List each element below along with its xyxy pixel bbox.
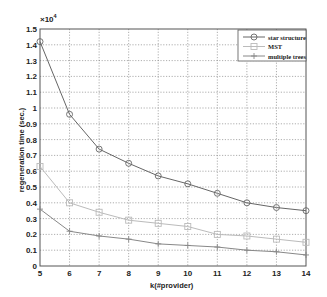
plus-marker [244,247,250,253]
x-tick-label: 5 [38,269,43,278]
chart-canvas: 00.10.20.30.40.50.60.70.80.911.11.21.31.… [0,0,327,297]
y-tick-label: 0.2 [26,230,38,239]
y-tick-label: 1.1 [26,88,38,97]
y-tick-label: 0.4 [26,199,38,208]
x-tick-label: 6 [67,269,72,278]
series-line [40,42,306,211]
x-axis-label: k(#provider) [150,281,194,290]
plus-marker [273,249,279,255]
legend-label: MST [268,43,283,50]
x-axis-ticks: 567891011121314 [38,269,311,278]
y-tick-label: 0.1 [26,246,38,255]
plot-area [40,29,306,266]
legend: star structureMSTmultiple trees [238,30,306,61]
y-tick-label: 0.6 [26,167,38,176]
y-tick-label: 0.7 [26,151,38,160]
series-multiple-trees [37,206,309,258]
legend-entry: star structure [243,34,306,41]
legend-label: star structure [268,34,306,41]
y-tick-label: 1.5 [26,25,38,34]
x-tick-label: 13 [272,269,281,278]
y-tick-label: 1 [33,104,38,113]
y-axis-multiplier: ×104 [40,13,58,24]
x-tick-label: 12 [242,269,251,278]
y-tick-label: 0.3 [26,215,38,224]
y-axis-ticks: 00.10.20.30.40.50.60.70.80.911.11.21.31.… [26,25,38,271]
plus-marker [96,233,102,239]
plus-marker [214,244,220,250]
y-tick-label: 1.4 [26,41,38,50]
x-tick-label: 11 [213,269,222,278]
plus-marker [185,242,191,248]
data-series [37,39,309,258]
y-tick-label: 0.8 [26,136,38,145]
x-tick-label: 10 [183,269,192,278]
y-axis-label: regeneration time (sec.) [17,107,26,192]
y-tick-label: 1.3 [26,57,38,66]
plus-marker [155,241,161,247]
x-tick-label: 8 [126,269,131,278]
line-chart: 00.10.20.30.40.50.60.70.80.911.11.21.31.… [0,0,327,297]
y-tick-label: 1.2 [26,72,38,81]
x-tick-label: 9 [156,269,161,278]
x-tick-label: 14 [302,269,311,278]
series-line [40,166,306,242]
series-star-structure [37,39,309,214]
y-tick-label: 0.9 [26,120,38,129]
grid-lines [40,29,306,266]
y-tick-label: 0.5 [26,183,38,192]
legend-label: multiple trees [268,53,306,60]
plus-marker [126,236,132,242]
series-line [40,209,306,255]
plus-marker [303,252,309,258]
x-tick-label: 7 [97,269,102,278]
